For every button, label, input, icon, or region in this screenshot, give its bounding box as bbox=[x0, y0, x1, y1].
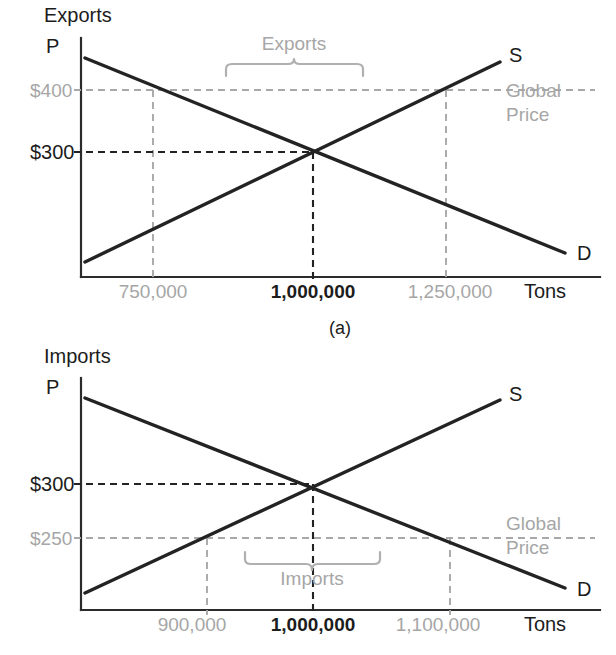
imports-global-price-label-line2: Price bbox=[506, 537, 549, 558]
imports-price-tick-250: $250 bbox=[30, 528, 72, 549]
imports-x-axis-label: Tons bbox=[524, 613, 566, 635]
imports-price-tick-300: $300 bbox=[30, 473, 75, 495]
imports-quantity-tick-1000000: 1,000,000 bbox=[271, 614, 356, 635]
exports-gap-label: Exports bbox=[262, 33, 326, 54]
exports-caption-svg: (a) bbox=[0, 300, 616, 340]
imports-gap-label: Imports bbox=[280, 568, 343, 589]
imports-quantity-tick-900000: 900,000 bbox=[158, 614, 227, 635]
exports-supply-curve-label: S bbox=[509, 44, 522, 66]
exports-chart-panel: Exports P S D $400 $300 750,000 1,000,00… bbox=[0, 0, 616, 340]
imports-y-axis-label: P bbox=[46, 376, 59, 398]
exports-demand-curve-label: D bbox=[577, 242, 591, 264]
exports-quantity-tick-1000000: 1,000,000 bbox=[271, 281, 356, 302]
imports-quantity-tick-1100000: 1,100,000 bbox=[396, 614, 481, 635]
exports-demand-curve bbox=[85, 58, 565, 253]
exports-price-tick-400: $400 bbox=[30, 80, 72, 101]
exports-global-price-label-line1: Global bbox=[506, 80, 561, 101]
imports-demand-curve-label: D bbox=[577, 578, 591, 600]
exports-gap-brace bbox=[226, 59, 363, 76]
exports-x-axis-label: Tons bbox=[524, 280, 566, 302]
exports-y-axis-label: P bbox=[46, 35, 59, 57]
exports-quantity-tick-750000: 750,000 bbox=[119, 281, 188, 302]
exports-chart-title: Exports bbox=[44, 4, 112, 26]
exports-supply-curve bbox=[85, 62, 500, 262]
panel-a-caption: (a) bbox=[329, 318, 351, 338]
imports-supply-curve-label: S bbox=[509, 383, 522, 405]
exports-svg: Exports P S D $400 $300 750,000 1,000,00… bbox=[0, 0, 616, 340]
imports-chart-panel: Imports P S D $300 $250 900,000 1,000,00… bbox=[0, 340, 616, 655]
exports-price-tick-300: $300 bbox=[30, 141, 75, 163]
exports-global-price-label-line2: Price bbox=[506, 104, 549, 125]
imports-svg: Imports P S D $300 $250 900,000 1,000,00… bbox=[0, 340, 616, 655]
imports-chart-title: Imports bbox=[44, 345, 111, 367]
exports-quantity-tick-1250000: 1,250,000 bbox=[408, 281, 493, 302]
imports-global-price-label-line1: Global bbox=[506, 513, 561, 534]
